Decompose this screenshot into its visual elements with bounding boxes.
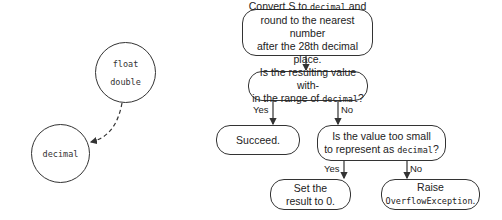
- range-check: Is the resulting value with- in the rang…: [248, 71, 368, 101]
- code-text: OverflowException: [386, 196, 473, 206]
- yes-label: Yes: [324, 163, 340, 174]
- conversion-arrow: [91, 103, 122, 142]
- text: Is the resulting value with-: [260, 66, 356, 91]
- text: after the 28th decimal place.: [257, 40, 358, 65]
- float-label: float: [113, 55, 139, 73]
- raise-node: Raise OverflowException.: [381, 179, 480, 210]
- text: in the range of: [252, 92, 322, 104]
- set-zero-node: Set the result to 0.: [270, 179, 351, 210]
- text: and: [346, 0, 366, 12]
- decimal-node: decimal: [31, 124, 90, 183]
- no-label: No: [341, 104, 353, 115]
- float-double-node: float double: [95, 42, 156, 103]
- code-text: decimal: [397, 145, 433, 155]
- text: Set the: [294, 182, 327, 194]
- text: ?: [433, 143, 439, 155]
- text: round to the nearest number: [261, 14, 355, 39]
- code-text: decimal: [322, 94, 358, 104]
- text: Succeed.: [236, 134, 280, 147]
- code-text: decimal: [310, 2, 346, 12]
- text: result to 0.: [286, 195, 335, 207]
- yes-label: Yes: [253, 104, 269, 115]
- text: to represent as: [324, 143, 397, 155]
- succeed-node: Succeed.: [216, 125, 300, 155]
- no-label: No: [410, 163, 422, 174]
- text: Is the value too small: [332, 130, 431, 142]
- text: Convert S to: [249, 0, 310, 12]
- text: ?: [358, 92, 364, 104]
- convert-step: Convert S to decimal and round to the ne…: [242, 9, 373, 56]
- text: .: [473, 194, 476, 206]
- text: Raise: [417, 181, 444, 193]
- decimal-label: decimal: [43, 145, 79, 163]
- too-small-check: Is the value too small to represent as d…: [317, 125, 446, 161]
- double-label: double: [110, 73, 141, 91]
